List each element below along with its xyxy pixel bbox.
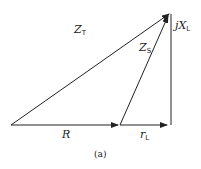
rl-label: rL: [140, 129, 149, 142]
zt-label: ZT: [74, 24, 86, 37]
xl-label: jXL: [175, 20, 190, 33]
impedance-phasor-diagram: ZT ZS jXL R rL (a): [0, 0, 201, 169]
figure-caption: (a): [94, 149, 106, 159]
zs-label: ZS: [139, 42, 151, 55]
r-label: R: [62, 129, 70, 140]
zs-vector: [120, 16, 168, 125]
zt-vector: [11, 14, 169, 125]
phasor-lines: [0, 0, 201, 169]
